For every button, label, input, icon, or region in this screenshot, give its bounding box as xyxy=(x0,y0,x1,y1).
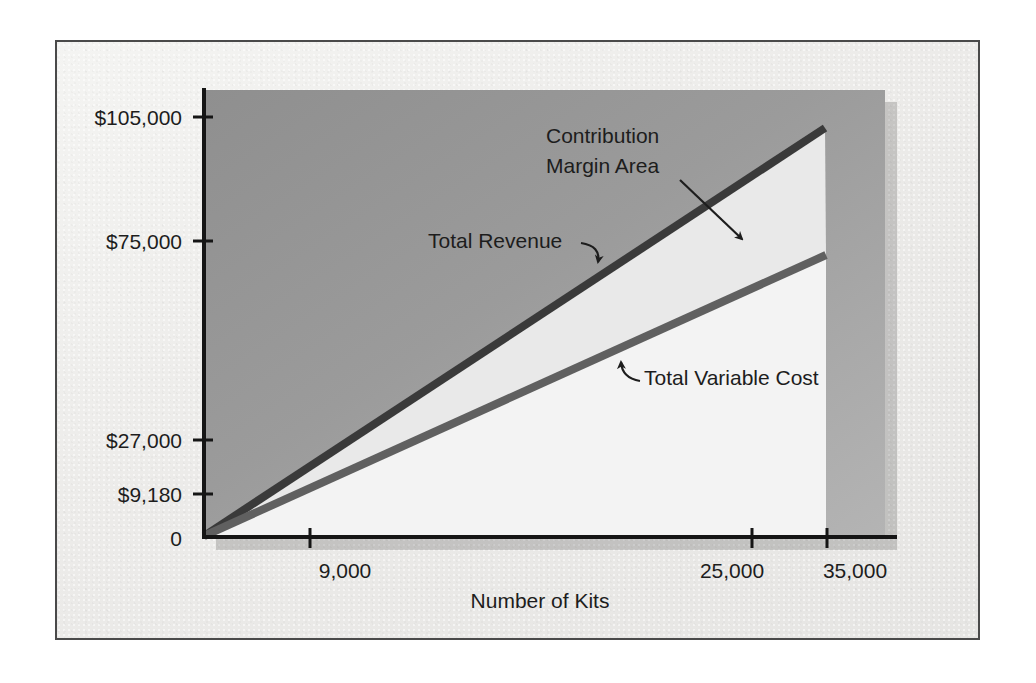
x-tick-label-25000: 25,000 xyxy=(700,559,764,582)
cvp-chart: $105,000 $75,000 $27,000 $9,180 0 9,000 … xyxy=(0,0,1036,683)
total-revenue-callout: Total Revenue xyxy=(428,229,562,252)
contribution-margin-callout-line1: Contribution xyxy=(546,124,659,147)
contribution-margin-callout-line2: Margin Area xyxy=(546,154,660,177)
y-tick-label-27000: $27,000 xyxy=(106,429,182,452)
figure-container: $105,000 $75,000 $27,000 $9,180 0 9,000 … xyxy=(0,0,1036,683)
x-tick-label-9000: 9,000 xyxy=(319,559,372,582)
y-tick-label-9180: $9,180 xyxy=(118,483,182,506)
x-tick-label-35000: 35,000 xyxy=(823,559,887,582)
y-tick-label-75000: $75,000 xyxy=(106,230,182,253)
y-tick-label-105000: $105,000 xyxy=(94,106,182,129)
x-axis-title: Number of Kits xyxy=(471,589,610,612)
y-tick-label-0: 0 xyxy=(170,527,182,550)
total-variable-cost-callout: Total Variable Cost xyxy=(644,366,819,389)
